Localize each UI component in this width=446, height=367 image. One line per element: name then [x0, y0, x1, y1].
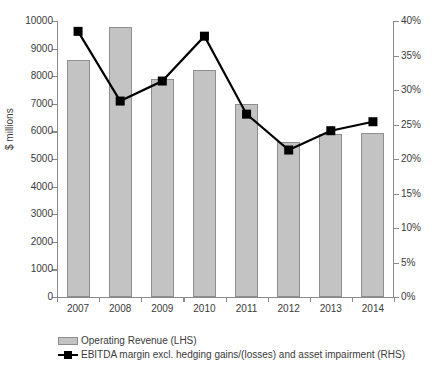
right-tick-label-0%: 0%: [401, 292, 415, 302]
right-tick-15%: [394, 194, 399, 195]
left-tick-label-1000: 1000: [31, 264, 53, 274]
right-tick-label-35%: 35%: [401, 51, 421, 61]
right-tick-5%: [394, 263, 399, 264]
bar-swatch-icon: [58, 337, 78, 345]
x-tick-1: [99, 297, 100, 302]
left-tick-label-10000: 10000: [25, 16, 53, 26]
left-tick-label-7000: 7000: [31, 99, 53, 109]
left-tick-label-9000: 9000: [31, 44, 53, 54]
marker-2013: [326, 126, 335, 135]
legend-label-operating-revenue: Operating Revenue (LHS): [81, 335, 197, 347]
x-label-2008: 2008: [99, 303, 141, 314]
right-tick-30%: [394, 90, 399, 91]
chart-container: $ millions 01000200030004000500060007000…: [0, 0, 446, 367]
left-tick-label-3000: 3000: [31, 209, 53, 219]
right-tick-label-25%: 25%: [401, 120, 421, 130]
left-tick-label-0: 0: [47, 292, 53, 302]
x-tick-8: [394, 297, 395, 302]
x-label-2012: 2012: [268, 303, 310, 314]
left-tick-label-4000: 4000: [31, 182, 53, 192]
marker-2011: [242, 110, 251, 119]
x-tick-4: [226, 297, 227, 302]
marker-2008: [116, 97, 125, 106]
right-tick-label-15%: 15%: [401, 189, 421, 199]
x-label-2007: 2007: [57, 303, 99, 314]
right-tick-label-40%: 40%: [401, 16, 421, 26]
left-tick-label-5000: 5000: [31, 154, 53, 164]
left-tick-label-2000: 2000: [31, 237, 53, 247]
x-tick-6: [310, 297, 311, 302]
right-tick-label-5%: 5%: [401, 258, 415, 268]
x-label-2011: 2011: [226, 303, 268, 314]
right-tick-label-20%: 20%: [401, 154, 421, 164]
marker-2014: [368, 117, 377, 126]
x-tick-5: [268, 297, 269, 302]
line-series-layer: [57, 21, 394, 297]
x-tick-7: [352, 297, 353, 302]
left-tick-label-6000: 6000: [31, 126, 53, 136]
left-tick-label-8000: 8000: [31, 71, 53, 81]
right-tick-25%: [394, 125, 399, 126]
y-axis-title: $ millions: [4, 108, 15, 150]
right-tick-40%: [394, 21, 399, 22]
x-tick-2: [141, 297, 142, 302]
marker-2007: [74, 27, 83, 36]
x-label-2013: 2013: [310, 303, 352, 314]
ebitda-margin-markers: [74, 27, 378, 155]
chart-legend: Operating Revenue (LHS) EBITDA margin ex…: [58, 334, 405, 362]
right-tick-label-10%: 10%: [401, 223, 421, 233]
right-tick-35%: [394, 56, 399, 57]
legend-label-ebitda-margin: EBITDA margin excl. hedging gains/(losse…: [81, 349, 405, 361]
x-label-2009: 2009: [141, 303, 183, 314]
x-tick-3: [183, 297, 184, 302]
x-label-2010: 2010: [183, 303, 225, 314]
right-tick-10%: [394, 228, 399, 229]
marker-2009: [158, 77, 167, 86]
plot-area: 0100020003000400050006000700080009000100…: [57, 21, 394, 297]
x-label-2014: 2014: [352, 303, 394, 314]
line-marker-swatch-icon: [58, 350, 78, 360]
right-tick-label-30%: 30%: [401, 85, 421, 95]
legend-item-ebitda-margin: EBITDA margin excl. hedging gains/(losse…: [58, 348, 405, 362]
x-tick-0: [57, 297, 58, 302]
marker-2012: [284, 146, 293, 155]
marker-2010: [200, 32, 209, 41]
right-tick-20%: [394, 159, 399, 160]
legend-item-operating-revenue: Operating Revenue (LHS): [58, 334, 405, 348]
